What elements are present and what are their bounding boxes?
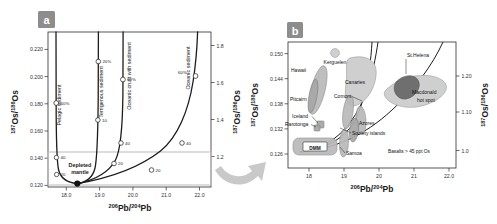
xb-tick-0: 18 <box>306 173 312 179</box>
marker-pelagic-60-label: 60% <box>61 101 70 106</box>
marker-occrust-60 <box>121 77 126 82</box>
marker-occrust-40 <box>119 141 124 146</box>
marker-ocsed-40 <box>180 141 185 146</box>
label-macdonald-2: hot spot <box>417 97 435 103</box>
svg-text:187Os/188Os: 187Os/188Os <box>250 83 260 127</box>
label-iceland: Iceland <box>292 113 308 119</box>
svg-text:187Os/186Os: 187Os/186Os <box>480 83 490 127</box>
ya-label-sup: 187 <box>10 125 16 134</box>
label-society-islands: Society islands <box>352 130 386 136</box>
svg-text:187Os/186Os: 187Os/186Os <box>232 90 242 134</box>
panel-b-xaxis: 18 19 20 21 22.0 <box>306 168 454 179</box>
ybr-tick-0: 1.0 <box>462 148 469 154</box>
label-st-helena: St.Helena <box>407 52 429 58</box>
label-pitcairn: Pitcairn <box>290 96 307 102</box>
yb-tick-3: 0.144 <box>270 76 283 82</box>
svg-text:Oceanic sediment: Oceanic sediment <box>185 46 191 90</box>
marker-terrigenous-10 <box>96 118 101 123</box>
label-samoa: Samoa <box>346 150 362 156</box>
xa-tick-3: 21.0 <box>161 192 171 198</box>
ya-tick-4: 0.200 <box>30 74 43 80</box>
panel-a-badge-label: a <box>43 14 50 26</box>
field-kerguelen <box>331 49 340 58</box>
panel-b-ylabel-right: 187Os/186Os <box>480 83 490 127</box>
curve-label-terrigenous: Terrigenous sediment <box>98 66 104 118</box>
marker-occrust-60-label: 60% <box>127 77 136 82</box>
marker-pelagic-20 <box>54 172 58 176</box>
curve-terrigenous-sediment <box>77 32 98 184</box>
panel-a-ylabel-right: 187Os/186Os <box>232 90 242 134</box>
label-dmm: DMM <box>309 146 320 151</box>
label-rarotonga: Rarotonga <box>285 121 309 127</box>
ya-tick-1: 0.140 <box>30 155 43 161</box>
ybr-tick-1: 1.10 <box>462 109 472 115</box>
ya-tick-2: 0.160 <box>30 128 43 134</box>
yar-tick-0: 1.2 <box>217 154 224 160</box>
marker-occrust-20 <box>112 161 117 166</box>
yar-label-a: Os/ <box>232 110 242 124</box>
svg-text:187Os/188Os: 187Os/188Os <box>10 90 20 134</box>
label-hawaii: Hawaii <box>291 67 306 73</box>
panel-a: a 0.120 0.140 0.160 0.180 0.200 0.220 18… <box>10 11 242 213</box>
field-rarotonga <box>314 125 320 131</box>
zoom-connector-arrow <box>215 162 266 185</box>
marker-terrigenous-20-label: 20% <box>102 59 111 64</box>
marker-terrigenous-20 <box>96 59 101 64</box>
depleted-mantle-label-line2: mantle <box>71 169 88 175</box>
depleted-mantle-label-line1: Depleted <box>69 162 92 168</box>
marker-terrigenous-10-label: 10 <box>102 118 107 123</box>
marker-pelagic-60 <box>54 101 59 106</box>
ya-tick-3: 0.180 <box>30 101 43 107</box>
figure-canvas: a 0.120 0.140 0.160 0.180 0.200 0.220 18… <box>0 0 497 224</box>
figure-root: a 0.120 0.140 0.160 0.180 0.200 0.220 18… <box>0 0 497 224</box>
marker-ocsed-60 <box>193 74 198 79</box>
yb-tick-1: 0.132 <box>270 126 283 132</box>
panel-b: b <box>250 22 490 194</box>
label-macdonald-1: Macdonald <box>412 89 437 95</box>
xa-tick-1: 19.0 <box>95 192 105 198</box>
xb-tick-3: 21 <box>411 173 417 179</box>
ybr-tick-2: 1.20 <box>462 73 472 79</box>
xa-tick-0: 18.0 <box>61 192 71 198</box>
marker-pelagic-40 <box>54 155 58 159</box>
ya-tick-0: 0.120 <box>30 182 43 188</box>
xa-tick-4: 22.0 <box>194 192 204 198</box>
ya-label-sup2: 188 <box>10 101 16 110</box>
ya-label-b: Os <box>10 90 20 102</box>
marker-ocsed-40-label: 40 <box>186 141 191 146</box>
yb-tick-4: 0.150 <box>270 51 283 57</box>
marker-pelagic-40-label: 40 <box>61 155 66 160</box>
yar-tick-3: 1.8 <box>217 43 224 49</box>
curve-label-oceanic-sediment: Oceanic sediment <box>185 46 191 90</box>
yb-tick-0: 0.126 <box>270 151 283 157</box>
panel-a-xaxis: 18.0 19.0 20.0 21.0 22.0 <box>61 187 204 198</box>
panel-a-yaxis-right: 1.2 1.4 1.6 1.8 <box>211 43 224 160</box>
depleted-mantle-marker <box>74 181 80 187</box>
marker-ocsed-20-label: 20 <box>156 168 161 173</box>
panel-a-ylabel-left: 187Os/188Os <box>10 90 20 134</box>
panel-b-yaxis-right: 1.0 1.10 1.20 <box>456 73 472 154</box>
svg-text:Oceanic crust with sediment: Oceanic crust with sediment <box>126 42 132 110</box>
curve-oceanic-sediment <box>77 32 197 184</box>
yar-tick-1: 1.4 <box>217 117 224 123</box>
label-canaries: Canaries <box>345 79 366 85</box>
yar-label-sup: 187 <box>232 125 238 134</box>
marker-ocsed-60-label: 60% <box>178 70 187 75</box>
ya-tick-5: 0.220 <box>30 46 43 52</box>
marker-occrust-40-label: 40 <box>125 141 130 146</box>
yar-tick-2: 1.6 <box>217 80 224 86</box>
label-comors: Comors <box>334 93 352 99</box>
yar-label-sup2: 186 <box>232 101 238 110</box>
panel-b-badge-label: b <box>292 25 299 37</box>
svg-text:Terrigenous sediment: Terrigenous sediment <box>98 66 104 118</box>
marker-pelagic-20-label: 20 <box>61 172 66 177</box>
xb-tick-2: 20 <box>376 173 382 179</box>
label-azores: Azores <box>359 120 375 126</box>
yb-tick-2: 0.138 <box>270 101 283 107</box>
panel-b-ylabel-left: 187Os/188Os <box>250 83 260 127</box>
curve-label-oceanic-crust: Oceanic crust with sediment <box>126 42 132 110</box>
panel-a-yaxis-left: 0.120 0.140 0.160 0.180 0.200 0.220 <box>30 46 48 188</box>
ya-label-a: Os/ <box>10 110 20 124</box>
marker-ocsed-20 <box>149 168 154 173</box>
xb-tick-1: 19 <box>341 173 347 179</box>
